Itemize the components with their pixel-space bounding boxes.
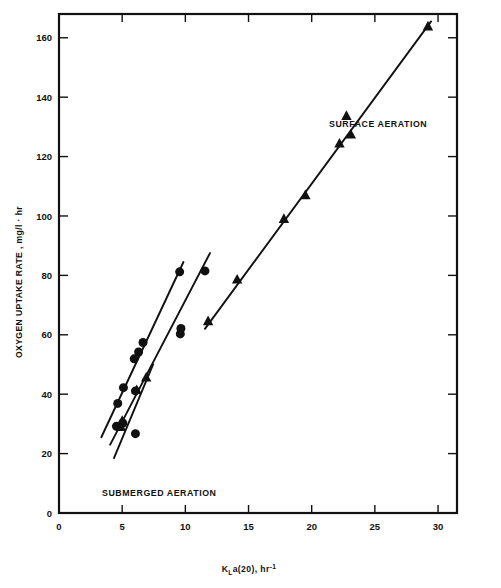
data-point-triangle-s4-p3: [300, 190, 310, 200]
x-tick-label-15: 15: [243, 521, 254, 532]
y-axis-tick-labels: 020406080100120140160: [36, 32, 52, 518]
data-point-circle-s3-p0: [131, 429, 140, 438]
x-tick-label-30: 30: [433, 521, 444, 532]
x-axis-title-superscript: -1: [270, 563, 277, 570]
data-point-circle-s0-p1: [113, 399, 122, 408]
data-point-circle-s0-p6: [175, 267, 184, 276]
y-tick-label-40: 40: [41, 389, 52, 400]
surface-aeration-annotation: SURFACE AERATION: [329, 119, 427, 129]
x-axis-title: KLa(20), hr-1: [222, 563, 277, 576]
y-tick-label-160: 160: [36, 32, 52, 43]
data-point-triangle-s4-p6: [346, 129, 356, 139]
y-tick-label-80: 80: [41, 270, 52, 281]
x-tick-label-10: 10: [180, 521, 191, 532]
data-point-circle-s0-p2: [119, 383, 128, 392]
x-tick-label-20: 20: [306, 521, 317, 532]
y-tick-label-100: 100: [36, 211, 52, 222]
oxygen-uptake-scatter-chart: 051015202530 020406080100120140160 SURFA…: [0, 0, 501, 588]
y-tick-label-120: 120: [36, 151, 52, 162]
x-tick-label-25: 25: [370, 521, 381, 532]
y-axis-title: OXYGEN UPTAKE RATE , mg/l · hr: [14, 206, 24, 358]
axes-border: [59, 14, 457, 513]
data-point-triangle-s4-p2: [279, 213, 289, 223]
y-tick-label-60: 60: [41, 329, 52, 340]
submerged-aeration-annotation: SUBMERGED AERATION: [102, 488, 217, 498]
x-axis-tick-labels: 051015202530: [56, 521, 443, 532]
x-tick-label-0: 0: [56, 521, 61, 532]
x-axis-title-mid: a(20), hr: [233, 564, 270, 574]
data-point-circle-s1-p4: [200, 266, 209, 275]
y-tick-label-20: 20: [41, 448, 52, 459]
data-point-circle-s1-p3: [176, 324, 185, 333]
data-point-triangle-s4-p4: [334, 138, 344, 148]
data-point-circle-s0-p5: [139, 338, 148, 347]
data-point-circle-s0-p4: [134, 348, 143, 357]
y-tick-label-0: 0: [47, 508, 52, 519]
svg-text:KLa(20), hr-1: KLa(20), hr-1: [222, 563, 277, 576]
y-axis-ticks: [59, 38, 457, 454]
figure-container: 051015202530 020406080100120140160 SURFA…: [0, 0, 501, 588]
fit-line-series-1: [110, 253, 210, 445]
plot-frame: [59, 14, 457, 513]
fit-lines-group: [101, 21, 431, 458]
x-tick-label-5: 5: [120, 521, 126, 532]
y-tick-label-140: 140: [36, 92, 52, 103]
